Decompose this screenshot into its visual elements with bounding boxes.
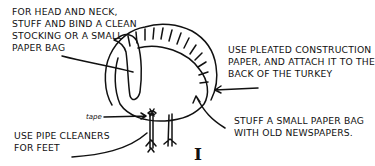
tape-knot <box>148 109 156 116</box>
head-neck-label: FOR HEAD AND NECK, STUFF AND BIND A CLEA… <box>12 6 137 54</box>
leader-tail <box>215 86 258 93</box>
leader-head <box>62 56 133 72</box>
figure-number: I <box>194 144 202 164</box>
right-leg <box>164 114 176 146</box>
feet-label: USE PIPE CLEANERS FOR FEET <box>14 130 110 154</box>
leader-body <box>193 96 225 128</box>
tape-label: tape <box>86 113 102 121</box>
body-label: STUFF A SMALL PAPER BAG WITH OLD NEWSPAP… <box>234 115 364 139</box>
tail-label: USE PLEATED CONSTRUCTION PAPER, AND ATTA… <box>228 44 375 80</box>
